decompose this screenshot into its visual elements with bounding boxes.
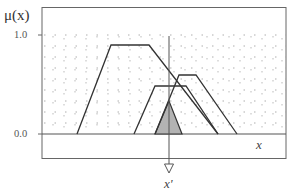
x-axis-label: x xyxy=(256,137,262,153)
plot-frame xyxy=(42,8,286,159)
y-axis-label: μ(x) xyxy=(4,7,30,24)
y-tick-0: 0.0 xyxy=(14,128,27,139)
membership-function-left xyxy=(77,45,218,134)
y-tick-1: 1.0 xyxy=(14,29,27,40)
arrow-down-icon xyxy=(165,164,174,173)
input-value-label: x' xyxy=(164,176,173,192)
fuzzy-membership-diagram xyxy=(0,0,298,196)
